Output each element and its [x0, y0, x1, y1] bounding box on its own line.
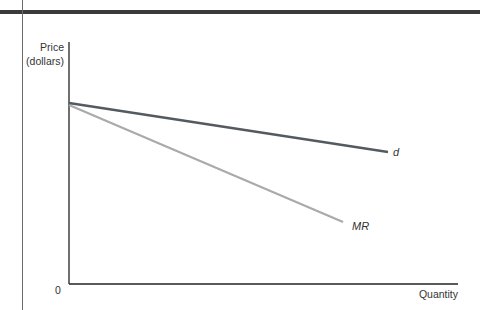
origin-label: 0: [55, 284, 61, 296]
mr-curve: [69, 105, 343, 222]
chart-canvas: Price (dollars) 0 Quantity d MR: [0, 0, 480, 310]
x-axis-label: Quantity: [419, 288, 459, 300]
y-axis-label-line1: Price: [40, 41, 64, 53]
y-axis-label-line2: (dollars): [26, 55, 64, 67]
demand-curve: [69, 103, 388, 152]
mr-curve-label: MR: [352, 220, 369, 232]
demand-curve-label: d: [393, 146, 400, 158]
